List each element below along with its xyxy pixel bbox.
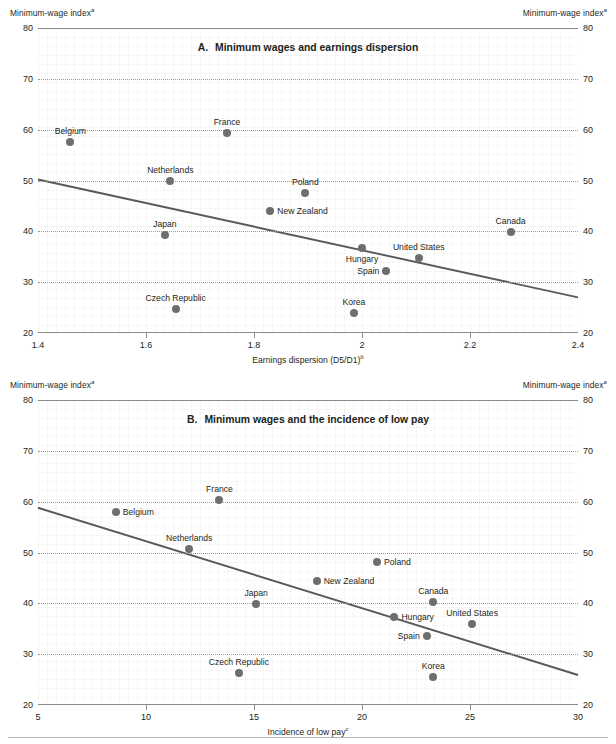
x-tick-mark (362, 333, 363, 338)
x-tick-label: 2.2 (464, 340, 477, 350)
x-tick-label: 1.6 (140, 340, 153, 350)
y-tick-label-left: 50 (23, 176, 33, 186)
panel-title-b: B.Minimum wages and the incidence of low… (38, 414, 578, 425)
x-tick-label: 25 (465, 712, 475, 722)
gridline-y (38, 451, 578, 452)
y-axis-title-right-a: Minimum-wage indexa (523, 8, 607, 18)
y-tick-label-right: 30 (583, 277, 593, 287)
data-point-marker (350, 309, 358, 317)
x-tick-label: 15 (249, 712, 259, 722)
y-tick-label-left: 30 (23, 649, 33, 659)
y-tick-label-left: 20 (23, 700, 33, 710)
gridline-y (38, 502, 578, 503)
data-point-marker (429, 673, 437, 681)
x-tick-label: 5 (35, 712, 40, 722)
x-tick-mark (146, 705, 147, 710)
data-point-marker (429, 598, 437, 606)
data-point-marker (390, 613, 398, 621)
data-point-marker (266, 207, 274, 215)
data-point-label: Spain (398, 631, 420, 641)
data-point-marker (252, 600, 260, 608)
data-point-label: New Zealand (324, 576, 375, 586)
gridline-y (38, 231, 578, 232)
gridline-y (38, 130, 578, 131)
x-axis-title: Earnings dispersion (D5/D1)b (252, 355, 363, 365)
y-tick-label-right: 70 (583, 74, 593, 84)
y-tick-label-right: 30 (583, 649, 593, 659)
data-point-label: France (214, 117, 241, 127)
y-tick-label-right: 60 (583, 497, 593, 507)
x-tick-mark (254, 705, 255, 710)
data-point-marker (66, 138, 74, 146)
x-tick-label: 30 (573, 712, 583, 722)
data-point-marker (185, 545, 193, 553)
x-tick-label: 2 (359, 340, 364, 350)
data-point-label: United States (393, 242, 445, 252)
data-point-label: Belgium (123, 507, 154, 517)
y-tick-label-left: 30 (23, 277, 33, 287)
y-axis-title-right-b: Minimum-wage indexa (523, 380, 607, 390)
panel-title-a: A.Minimum wages and earnings dispersion (38, 42, 578, 53)
data-point-label: Spain (357, 266, 379, 276)
gridline-y (38, 603, 578, 604)
data-point-marker (373, 558, 381, 566)
data-point-label: New Zealand (277, 206, 328, 216)
y-tick-label-left: 80 (23, 395, 33, 405)
y-tick-label-right: 40 (583, 598, 593, 608)
panel-a: Minimum-wage indexa Minimum-wage indexa … (0, 0, 616, 372)
data-point-label: Japan (244, 588, 267, 598)
data-point-label: Canada (495, 216, 525, 226)
data-point-label: Canada (418, 586, 448, 596)
gridline-y (38, 282, 578, 283)
data-point-marker (235, 669, 243, 677)
data-point-label: United States (446, 608, 498, 618)
y-tick-label-right: 50 (583, 176, 593, 186)
y-tick-label-left: 40 (23, 226, 33, 236)
y-tick-label-right: 20 (583, 700, 593, 710)
y-tick-label-left: 70 (23, 446, 33, 456)
data-point-label: Poland (384, 557, 411, 567)
gridline-y (38, 654, 578, 655)
y-tick-label-left: 70 (23, 74, 33, 84)
y-tick-label-right: 20 (583, 328, 593, 338)
x-axis-title: Incidence of low payc (268, 727, 349, 737)
data-point-label: Netherlands (166, 533, 212, 543)
plot-area-a: A.Minimum wages and earnings dispersion … (38, 28, 578, 333)
data-point-label: Korea (342, 297, 365, 307)
axis-line-bottom-a (38, 332, 578, 333)
x-tick-mark (254, 333, 255, 338)
data-point-label: Korea (422, 661, 445, 671)
x-tick-mark (146, 333, 147, 338)
y-tick-label-left: 20 (23, 328, 33, 338)
y-axis-title-left-a: Minimum-wage indexa (10, 8, 94, 18)
gridline-y (38, 553, 578, 554)
y-tick-label-right: 40 (583, 226, 593, 236)
data-point-marker (223, 129, 231, 137)
y-tick-label-left: 40 (23, 598, 33, 608)
y-tick-label-left: 60 (23, 125, 33, 135)
footer-rule (8, 737, 608, 738)
data-point-marker (301, 189, 309, 197)
y-tick-label-left: 50 (23, 548, 33, 558)
x-tick-label: 2.4 (572, 340, 585, 350)
x-tick-label: 1.8 (248, 340, 261, 350)
data-point-marker (166, 177, 174, 185)
axis-line-top-b (38, 400, 578, 401)
data-point-marker (423, 632, 431, 640)
y-tick-label-right: 60 (583, 125, 593, 135)
data-point-label: France (206, 484, 233, 494)
y-tick-label-right: 50 (583, 548, 593, 558)
data-point-marker (215, 496, 223, 504)
y-tick-label-left: 80 (23, 23, 33, 33)
data-point-marker (415, 254, 423, 262)
data-point-label: Czech Republic (209, 657, 269, 667)
x-tick-mark (470, 333, 471, 338)
data-point-label: Hungary (401, 612, 433, 622)
data-point-marker (468, 620, 476, 628)
x-tick-label: 20 (357, 712, 367, 722)
x-tick-mark (362, 705, 363, 710)
y-axis-title-left-b: Minimum-wage indexa (10, 380, 94, 390)
axis-line-bottom-b (38, 704, 578, 705)
x-tick-label: 10 (141, 712, 151, 722)
data-point-label: Netherlands (147, 165, 193, 175)
